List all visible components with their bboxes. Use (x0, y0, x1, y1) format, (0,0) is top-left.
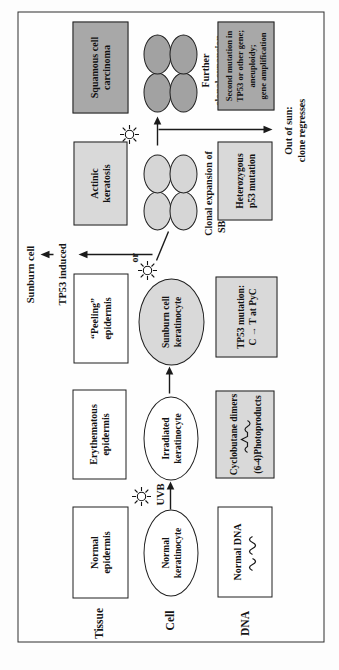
further-expansion-caption-line1: Further (198, 10, 211, 130)
carcinoma-cell-oval (169, 34, 197, 74)
box-squamous-line2: carcinoma (100, 45, 113, 90)
carcinoma-cell-oval (169, 72, 197, 112)
box-second-mutation-line3: aneuploidy; (246, 44, 258, 87)
sbc-cell-oval (169, 154, 197, 193)
oval-sunburn-line2: keratinocyte (171, 296, 183, 347)
box-peeling-epidermis: “Peeling” epidermis (73, 273, 128, 363)
box-tp53-mutation: TP53 mutation: C → T at PyC (215, 276, 277, 357)
box-actinic-keratosis: Actinic keratosis (73, 141, 127, 225)
oval-sunburn-keratinocyte: Sunburn cell keratinocyte (138, 278, 204, 365)
box-heterozygous-line2: p53 mutation (245, 153, 257, 207)
out-of-sun-caption-line2: clone regresses (294, 70, 307, 190)
box-peeling-line2: epidermis (101, 297, 114, 339)
oval-normal-keratinocyte: Normal keratinocyte (143, 509, 198, 596)
box-normal-dna: Normal DNA (217, 506, 272, 597)
out-of-sun-caption-line1: Out of sun: (281, 70, 294, 190)
oval-irradiated-line1: Irradiated (159, 417, 171, 459)
rotated-diagram-canvas: Tissue Cell DNA Normal epidermis Erythem… (0, 0, 339, 670)
box-heterozygous-p53: Heterozygous p53 mutation (217, 141, 272, 220)
uvb-label: UVB (154, 474, 165, 514)
box-normal-epidermis: Normal epidermis (72, 506, 128, 598)
scanned-figure-page: Tissue Cell DNA Normal epidermis Erythem… (0, 0, 339, 670)
box-erythematous-epidermis: Erythematous epidermis (72, 389, 126, 479)
box-photoproducts-line2: (6-4)Photoproducts (251, 395, 263, 473)
box-normal-dna-line1: Normal DNA (231, 523, 244, 580)
oval-normal-line2: keratinocyte (171, 527, 183, 578)
tp53-induced-label: TP53 induced (56, 214, 67, 334)
row-label-cell: Cell (159, 596, 179, 644)
box-tp53-mutation-line2: C → T at PyC (246, 288, 258, 345)
row-label-dna: DNA (234, 599, 254, 647)
box-tp53-mutation-line1: TP53 mutation: (234, 284, 246, 348)
box-photoproducts: Cyclobutane dimers (6-4)Photoproducts (215, 390, 274, 478)
box-erythematous-line2: epidermis (99, 413, 112, 455)
box-actinic-line2: keratosis (100, 164, 113, 202)
box-actinic-line1: Actinic (88, 168, 101, 199)
carcinoma-cell-oval (143, 72, 171, 112)
box-second-mutation-line4: gene amplification (257, 32, 269, 99)
oval-sunburn-line1: Sunburn cell (159, 296, 171, 348)
sbc-cell-oval (143, 191, 171, 230)
carcinoma-cell-oval (143, 34, 171, 74)
or-label: or (128, 251, 139, 264)
box-normal-epidermis-line1: Normal (88, 536, 101, 569)
oval-irradiated-keratinocyte: Irradiated keratinocyte (143, 396, 198, 480)
sbc-cell-oval (143, 154, 171, 193)
box-second-mutation-line1: Second mutation in (223, 30, 235, 100)
clonal-expansion-caption-line1: Clonal expansion of (201, 133, 214, 253)
dimer-squiggle-icon (239, 414, 251, 454)
sunburn-cell-label: Sunburn cell (24, 214, 35, 334)
box-photoproducts-line1: Cyclobutane dimers (227, 393, 239, 475)
box-squamous-cell-carcinoma: Squamous cell carcinoma (72, 21, 128, 113)
oval-irradiated-line2: keratinocyte (171, 413, 183, 464)
sbc-cell-oval (169, 191, 197, 230)
row-label-tissue: Tissue (88, 599, 108, 647)
out-of-sun-caption: Out of sun: clone regresses (281, 70, 307, 190)
box-heterozygous-line1: Heterozygous (233, 153, 245, 208)
box-peeling-line1: “Peeling” (88, 297, 101, 338)
oval-normal-line1: Normal (159, 537, 171, 568)
box-squamous-line1: Squamous cell (88, 36, 101, 97)
box-normal-epidermis-line2: epidermis (100, 531, 113, 573)
box-erythematous-line1: Erythematous (87, 404, 100, 465)
box-second-mutation: Second mutation in TP53 or other gene; a… (217, 21, 274, 110)
box-second-mutation-line2: TP53 or other gene; (234, 29, 246, 101)
dna-squiggle-icon (244, 531, 258, 573)
